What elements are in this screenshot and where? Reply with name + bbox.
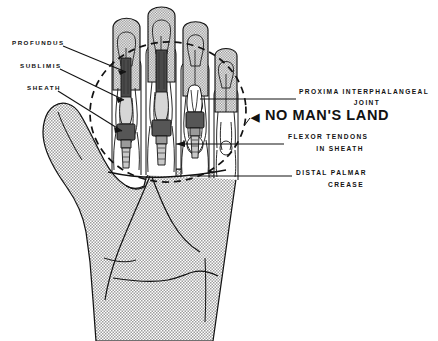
label-pip-joint-line2: JOINT [299, 100, 435, 107]
no-mans-land-arrow-icon: ◀ [251, 112, 259, 124]
label-distal-palmar-crease-line1: DISTAL PALMAR [296, 170, 367, 177]
label-distal-palmar-crease-line2: CREASE [296, 182, 396, 189]
label-flexor-tendons-line2: IN SHEATH [288, 146, 392, 153]
label-sheath: SHEATH [27, 85, 61, 92]
anatomical-diagram: PROFUNDUS SUBLIMIS SHEATH PROXIMA INTERP… [0, 0, 438, 341]
label-sublimis: SUBLIMIS [20, 63, 62, 70]
label-pip-joint-line1: PROXIMA INTERPHALANGEAL [299, 89, 429, 96]
label-no-mans-land: NO MAN'S LAND [265, 108, 389, 123]
hand-illustration [0, 0, 438, 341]
label-flexor-tendons-line1: FLEXOR TENDONS [288, 134, 368, 141]
label-profundus: PROFUNDUS [12, 40, 65, 47]
